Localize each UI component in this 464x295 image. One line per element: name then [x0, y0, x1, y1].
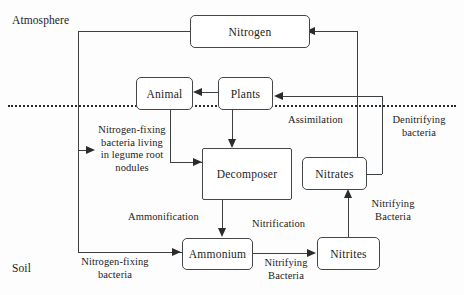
edge-label-nitrifying-bacteria-lower: Nitrifying Bacteria [253, 257, 319, 282]
edge-nitrites-up-to-nitrates [348, 198, 349, 237]
edge-label-denitrifying-bacteria: Denitrifying bacteria [381, 114, 457, 139]
edge-label-legume-bacteria: Nitrogen-fixing bacteria living in legum… [88, 124, 176, 174]
soil-zone-label: Soil [12, 262, 31, 275]
edge-label-ammonification: Ammonification [128, 211, 199, 224]
edge-label-nitrogen-fixing-soil: Nitrogen-fixing bacteria [68, 256, 162, 281]
arrowhead-to-nitrates-icon [344, 189, 352, 198]
node-nitrites-label: Nitrites [330, 248, 367, 260]
node-ammonium[interactable]: Ammonium [182, 238, 253, 270]
atmosphere-zone-label: Atmosphere [12, 14, 69, 27]
node-nitrogen-label: Nitrogen [229, 26, 272, 38]
edge-label-nitrification: Nitrification [252, 218, 305, 231]
arrowhead-to-nitrites-icon [307, 249, 316, 257]
nitrogen-cycle-diagram: Atmosphere Soil Nitrogen Animal Plants D… [0, 0, 464, 295]
edge-left-vertical-trunk [78, 31, 79, 252]
edge-trunk-to-ammonium [78, 252, 182, 253]
edge-plants-down-to-decomposer [232, 110, 233, 139]
arrowhead-to-ammonium-icon [218, 228, 226, 237]
arrowhead-to-decomposer-icon [193, 158, 202, 166]
node-nitrates-label: Nitrates [315, 168, 353, 180]
node-animal-label: Animal [147, 88, 183, 100]
node-plants[interactable]: Plants [218, 77, 273, 110]
edge-decomposer-down-to-ammonium [222, 200, 223, 228]
edge-nitrogen-to-left-trunk [78, 31, 190, 32]
arrowhead-to-plants-icon [274, 92, 283, 100]
node-nitrites[interactable]: Nitrites [317, 237, 380, 270]
node-plants-label: Plants [231, 88, 261, 100]
edge-ammonium-to-nitrites [253, 253, 309, 254]
arrowhead-to-animal-icon [193, 88, 202, 96]
edge-denitrifying-to-nitrogen [313, 31, 357, 32]
edge-label-assimilation: Assimilation [288, 114, 343, 127]
node-decomposer-label: Decomposer [217, 168, 278, 180]
edge-denitrifying-vertical [357, 31, 358, 157]
node-ammonium-label: Ammonium [189, 248, 247, 260]
node-decomposer[interactable]: Decomposer [202, 148, 292, 200]
edge-label-nitrifying-bacteria-right: Nitrifying Bacteria [359, 198, 427, 223]
edge-assimilation-to-plants [281, 96, 382, 97]
arrowhead-plants-to-decomposer-icon [228, 139, 236, 148]
arrowhead-to-ammonium-left-icon [172, 248, 181, 256]
node-nitrates[interactable]: Nitrates [302, 157, 367, 190]
node-nitrogen[interactable]: Nitrogen [190, 15, 310, 48]
edge-nitrates-right-stub [367, 174, 382, 175]
node-animal[interactable]: Animal [136, 77, 193, 110]
